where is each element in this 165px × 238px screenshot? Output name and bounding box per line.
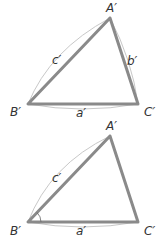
vertex-a-label: A′ bbox=[105, 119, 117, 133]
vertex-a-label: A′ bbox=[105, 1, 117, 15]
triangle-edges bbox=[28, 136, 138, 222]
side-a-label: a′ bbox=[76, 106, 86, 120]
triangle-edges bbox=[28, 18, 138, 104]
vertex-b-label: B′ bbox=[10, 224, 21, 238]
vertex-c-label: C′ bbox=[144, 224, 155, 238]
vertex-c-label: C′ bbox=[144, 105, 155, 119]
side-c-label: c′ bbox=[52, 53, 62, 67]
triangle-top: A′ B′ C′ c′ b′ a′ bbox=[10, 1, 155, 120]
diagram-canvas: A′ B′ C′ c′ b′ a′ A′ B′ C′ c′ a′ bbox=[0, 0, 165, 238]
side-c-label: c′ bbox=[52, 171, 62, 185]
side-a-label: a′ bbox=[76, 224, 86, 238]
side-b-label: b′ bbox=[127, 54, 138, 68]
vertex-b-label: B′ bbox=[10, 105, 21, 119]
triangle-bottom: A′ B′ C′ c′ a′ bbox=[10, 119, 155, 238]
